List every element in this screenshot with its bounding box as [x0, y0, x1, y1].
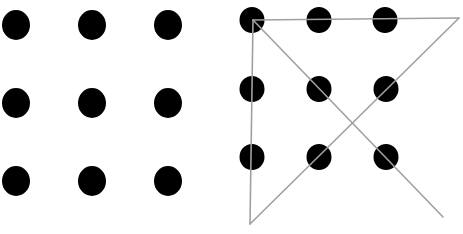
- solution-line: [253, 18, 459, 20]
- puzzle-dot: [78, 10, 106, 40]
- solution-dot: [373, 7, 398, 33]
- solution-line: [250, 20, 253, 224]
- puzzle-dot: [2, 10, 30, 40]
- solution-dot-grid: [240, 7, 460, 224]
- puzzle-dot: [2, 166, 30, 196]
- puzzle-dot: [154, 10, 182, 40]
- puzzle-dot: [2, 88, 30, 118]
- puzzle-dot: [78, 88, 106, 118]
- puzzle-dot: [154, 88, 182, 118]
- solution-dot: [240, 144, 265, 170]
- puzzle-dot-grid: [2, 10, 182, 196]
- nine-dots-diagram: [0, 0, 463, 234]
- puzzle-dot: [78, 166, 106, 196]
- solution-line: [253, 20, 443, 217]
- solution-lines: [250, 18, 459, 224]
- puzzle-dot: [154, 166, 182, 196]
